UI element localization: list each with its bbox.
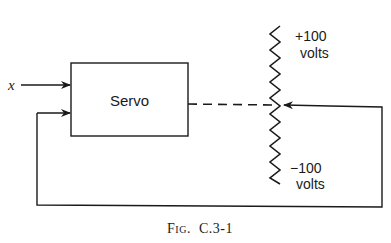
servo-label: Servo: [110, 92, 149, 109]
figure-caption: Fig. C.3-1: [167, 221, 233, 236]
caption-id: C.3-1: [199, 221, 233, 236]
negative-voltage-value: −100: [290, 160, 322, 176]
servo-feedback-diagram: x Servo +100 volts −100 volts Fig. C.3-1: [0, 0, 391, 243]
caption-prefix: Fig.: [167, 221, 191, 236]
mechanical-linkage-dashed: [188, 104, 272, 105]
wiper-arrow: [284, 105, 330, 106]
feedback-loop-line: [37, 106, 382, 207]
input-label: x: [7, 77, 15, 93]
negative-voltage-unit: volts: [296, 176, 325, 192]
positive-voltage-unit: volts: [300, 45, 329, 61]
positive-voltage-value: +100: [295, 28, 327, 44]
